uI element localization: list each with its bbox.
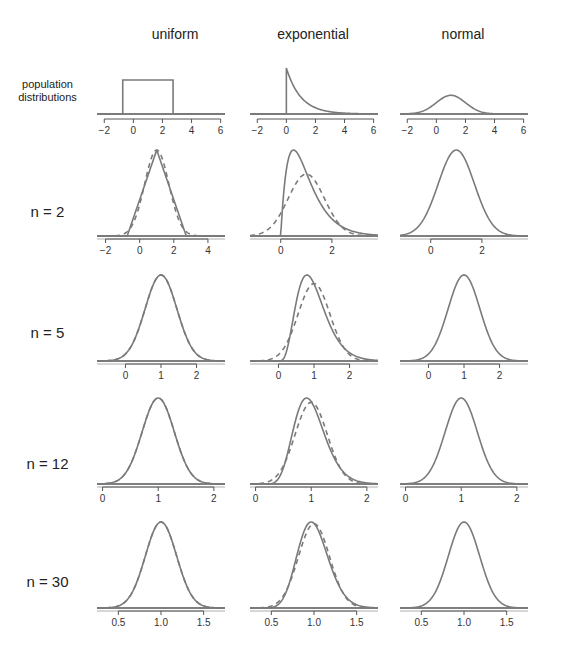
tick-label: 0: [428, 245, 434, 256]
panel-exponential-n12: 012: [245, 390, 383, 516]
tick-label: 6: [218, 125, 224, 136]
tick-label: 1: [461, 370, 467, 381]
panel-exponential-n5: 012: [245, 267, 383, 393]
density-curve-solid: [250, 522, 378, 608]
tick-label: 2: [313, 125, 319, 136]
tick-label: 2: [497, 370, 503, 381]
column-title-normal: normal: [393, 26, 533, 42]
tick-label: 2: [160, 125, 166, 136]
tick-label: 2: [514, 493, 520, 504]
panel-exponential-n2: 02: [245, 142, 383, 268]
tick-label: 2: [194, 370, 200, 381]
row-label-population-line2: distributions: [18, 91, 77, 103]
tick-label: 1: [158, 370, 164, 381]
tick-label: 0: [100, 493, 106, 504]
density-curve-solid: [97, 80, 225, 114]
tick-label: 6: [521, 125, 527, 136]
tick-label: 2: [329, 245, 335, 256]
density-curve-solid: [250, 275, 378, 361]
tick-label: 2: [347, 370, 353, 381]
row-label-n12: n = 12: [0, 455, 95, 472]
row-label-n5: n = 5: [0, 324, 95, 341]
column-title-exponential: exponential: [243, 26, 383, 42]
normal-approx-curve-dashed: [97, 275, 225, 361]
tick-label: 1.0: [154, 617, 168, 628]
row-label-population: population distributions: [0, 78, 95, 104]
density-curve-solid: [400, 150, 528, 236]
density-curve-solid: [97, 275, 225, 361]
panel-exponential-populationdistributions: −20246: [245, 72, 383, 146]
density-curve-solid: [400, 398, 528, 484]
density-curve-solid: [97, 398, 225, 484]
tick-label: 0: [284, 125, 290, 136]
density-curve-solid: [400, 275, 528, 361]
tick-label: 1.5: [350, 617, 364, 628]
tick-label: 0.5: [414, 617, 428, 628]
tick-label: 1: [155, 493, 161, 504]
tick-label: 0.5: [264, 617, 278, 628]
density-curve-solid: [400, 522, 528, 608]
panel-normal-n30: 0.51.01.5: [395, 514, 533, 640]
panel-uniform-n5: 012: [92, 267, 230, 393]
density-curve-solid: [400, 95, 528, 114]
tick-label: 0: [426, 370, 432, 381]
tick-label: 0: [278, 245, 284, 256]
normal-approx-curve-dashed: [97, 398, 225, 484]
density-curve-solid: [97, 522, 225, 608]
tick-label: 0: [131, 125, 137, 136]
tick-label: 1.0: [307, 617, 321, 628]
tick-label: 0: [276, 370, 282, 381]
panel-uniform-n30: 0.51.01.5: [92, 514, 230, 640]
row-label-n30: n = 30: [0, 573, 95, 590]
tick-label: 4: [189, 125, 195, 136]
panel-normal-n12: 012: [395, 390, 533, 516]
column-title-uniform: uniform: [105, 26, 245, 42]
density-curve-solid: [250, 68, 378, 114]
tick-label: 0.5: [111, 617, 125, 628]
tick-label: 2: [479, 245, 485, 256]
tick-label: −2: [402, 125, 414, 136]
panel-normal-populationdistributions: −20246: [395, 72, 533, 146]
panel-exponential-n30: 0.51.01.5: [245, 514, 383, 640]
normal-approx-curve-dashed: [250, 402, 378, 484]
tick-label: 0: [434, 125, 440, 136]
panel-normal-n5: 012: [395, 267, 533, 393]
tick-label: 0: [253, 493, 259, 504]
normal-approx-curve-dashed: [97, 522, 225, 608]
density-curve-solid: [250, 398, 378, 484]
tick-label: 2: [211, 493, 217, 504]
tick-label: −2: [99, 125, 111, 136]
row-label-n2: n = 2: [0, 203, 95, 220]
density-curve-solid: [97, 151, 225, 236]
tick-label: 1: [458, 493, 464, 504]
tick-label: 6: [371, 125, 377, 136]
tick-label: −2: [100, 245, 112, 256]
panel-uniform-populationdistributions: −20246: [92, 72, 230, 146]
tick-label: 4: [342, 125, 348, 136]
tick-label: 0: [123, 370, 129, 381]
tick-label: 1.5: [500, 617, 514, 628]
tick-label: 1: [311, 370, 317, 381]
tick-label: 4: [205, 245, 211, 256]
panel-normal-n2: 02: [395, 142, 533, 268]
normal-approx-curve-dashed: [250, 284, 378, 361]
tick-label: 2: [364, 493, 370, 504]
tick-label: 2: [463, 125, 469, 136]
tick-label: 0: [403, 493, 409, 504]
tick-label: −2: [252, 125, 264, 136]
panel-uniform-n12: 012: [92, 390, 230, 516]
tick-label: 4: [492, 125, 498, 136]
panel-uniform-n2: −2024: [92, 142, 230, 268]
tick-label: 1.0: [457, 617, 471, 628]
tick-label: 1.5: [197, 617, 211, 628]
tick-label: 1: [308, 493, 314, 504]
normal-approx-curve-dashed: [250, 524, 378, 608]
tick-label: 0: [137, 245, 143, 256]
row-label-population-line1: population: [22, 78, 73, 90]
tick-label: 2: [171, 245, 177, 256]
density-curve-solid: [250, 150, 378, 236]
normal-approx-curve-dashed: [250, 174, 378, 236]
